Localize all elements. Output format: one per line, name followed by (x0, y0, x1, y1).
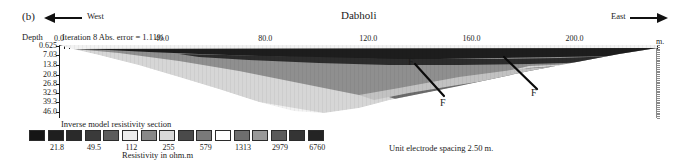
right-axis-tick (657, 109, 660, 110)
right-axis-tick (657, 45, 660, 46)
x-tick-label: 40.0 (155, 35, 169, 43)
right-axis-tick (657, 71, 660, 72)
right-axis-tick (657, 113, 660, 114)
model-block-grid (59, 45, 657, 118)
fault-label-2: F (440, 98, 446, 108)
legend-value-label: 1313 (235, 143, 251, 152)
fault-label-1: F (408, 57, 414, 67)
right-axis-tick (657, 80, 660, 81)
resistivity-figure: (b) West Dabholi East Depth Iteration 8 … (0, 0, 687, 161)
west-label: West (87, 12, 104, 21)
legend-swatch (289, 130, 305, 141)
legend-swatch (141, 130, 157, 141)
right-axis-tick (657, 94, 660, 95)
iteration-error-text: Iteration 8 Abs. error = 1.11% (62, 33, 164, 42)
right-axis-tick (657, 67, 660, 68)
right-axis-tick (657, 100, 660, 101)
legend-swatch (48, 130, 64, 141)
right-axis-tick (657, 89, 660, 90)
right-axis-tick (657, 56, 660, 57)
electrode-spacing-note: Unit electrode spacing 2.50 m. (389, 144, 493, 153)
right-axis-tick (657, 87, 660, 88)
right-axis-tick (657, 49, 660, 50)
right-axis-tick (657, 102, 660, 103)
x-tick-label: 80.0 (258, 35, 272, 43)
x-tick-label: 0.0 (54, 35, 64, 43)
right-axis-tick (657, 50, 660, 51)
x-tick-label: 200.0 (566, 35, 584, 43)
right-axis-tick (657, 98, 660, 99)
right-axis-tick (657, 116, 660, 117)
right-axis-tick (657, 111, 660, 112)
resistivity-section-plot: F F F (59, 45, 657, 118)
legend-swatch (196, 130, 212, 141)
x-tick-label: 160.0 (462, 35, 480, 43)
section-layers (59, 45, 657, 118)
legend-swatch (178, 130, 194, 141)
legend-swatch (103, 130, 119, 141)
right-axis-tick (657, 54, 660, 55)
legend-swatch (159, 130, 175, 141)
legend-value-label: 2979 (272, 143, 288, 152)
right-axis-tick (657, 103, 660, 104)
legend-swatch (271, 130, 287, 141)
right-axis-tick (657, 96, 660, 97)
right-axis-tick (657, 69, 660, 70)
right-axis-tick (657, 76, 660, 77)
legend-swatch (252, 130, 268, 141)
right-axis-tick (657, 47, 660, 48)
legend-swatch (29, 130, 45, 141)
legend-swatch (234, 130, 250, 141)
y-tick-label: 0.625 (39, 42, 57, 50)
right-axis-tick (657, 83, 660, 84)
figure-title: Dabholi (341, 10, 376, 21)
right-axis-tick (657, 78, 660, 79)
right-axis-tick (657, 72, 660, 73)
right-axis-tick (657, 92, 660, 93)
right-axis-tick (657, 58, 660, 59)
legend-swatch (215, 130, 231, 141)
legend-value-label: 6760 (309, 143, 325, 152)
legend-swatch (66, 130, 82, 141)
right-axis-tick (657, 118, 660, 119)
right-axis-tick (657, 74, 660, 75)
east-label: East (611, 12, 626, 21)
right-axis-tick (657, 52, 660, 53)
x-tick-label: 120.0 (359, 35, 377, 43)
fault-label-3: F (531, 88, 537, 98)
right-axis-tick (657, 60, 660, 61)
resistivity-color-scale (29, 130, 329, 141)
right-axis-tick (657, 61, 660, 62)
right-axis-tick (657, 107, 660, 108)
legend-swatch (85, 130, 101, 141)
right-axis-tick (657, 65, 660, 66)
legend-value-label: 579 (200, 143, 212, 152)
right-axis-tick (657, 114, 660, 115)
right-axis-tick (657, 63, 660, 64)
right-axis-tick (657, 85, 660, 86)
legend-value-label: 21.8 (50, 143, 64, 152)
legend-swatch (122, 130, 138, 141)
inverted-resistivity-section (59, 45, 657, 118)
legend-value-label: 49.5 (87, 143, 101, 152)
right-axis-tick (657, 82, 660, 83)
right-axis-tick (657, 91, 660, 92)
legend-swatch (308, 130, 324, 141)
legend-title: Inverse model resistivity section (61, 120, 171, 129)
resistivity-units-label: Resistivity in ohm.m (122, 151, 193, 160)
right-axis-tick (657, 105, 660, 106)
